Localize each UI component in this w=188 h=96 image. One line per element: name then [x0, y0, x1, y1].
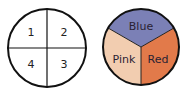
blue-label: Blue	[129, 20, 154, 33]
numbered-spinner: 1 2 3 4	[8, 9, 86, 87]
pink-label: Pink	[113, 53, 136, 66]
section-label-1: 1	[28, 26, 35, 39]
section-label-4: 4	[28, 58, 35, 71]
red-label: Red	[148, 53, 169, 66]
color-spinner: Blue Red Pink	[103, 9, 179, 85]
section-label-3: 3	[61, 58, 68, 71]
spinner-diagram: 1 2 3 4 Blue Red Pink	[0, 0, 188, 96]
section-label-2: 2	[61, 26, 68, 39]
